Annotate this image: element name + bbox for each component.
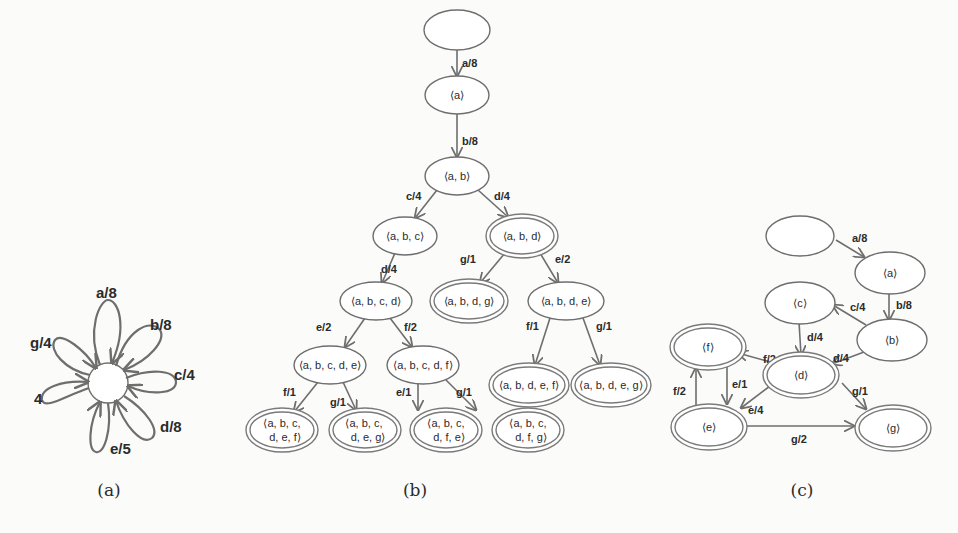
edge-label: f/2 <box>673 385 686 397</box>
node-label-abcdeg-line1: ⟨a, b, c, <box>345 417 382 429</box>
node-label-abdeg: ⟨a, b, d, e, g⟩ <box>579 379 642 391</box>
panel-a: a/8 b/8 c/4 d/8 e/5 4 g/4 (a) <box>30 284 196 500</box>
edge-label: f/1 <box>526 320 539 332</box>
node-label-abde: ⟨a, b, d, e⟩ <box>541 295 592 307</box>
flower-center-node <box>88 363 128 403</box>
panel-b: a/8 b/8 c/4 d/4 d/4 g/1 e/2 e/2 f/2 f/1 … <box>246 10 651 500</box>
edge-label: g/1 <box>330 396 346 408</box>
node-label-ab: ⟨a, b⟩ <box>444 170 470 182</box>
edge-label: c/4 <box>850 301 866 313</box>
petal-label-f: 4 <box>34 390 43 407</box>
node-label-abcdf: ⟨a, b, c, d, f⟩ <box>393 359 452 371</box>
edge-label: e/2 <box>555 253 570 265</box>
edge-c-c-d <box>799 322 801 355</box>
node-root <box>424 10 490 50</box>
edge-label: g/1 <box>460 253 476 265</box>
node-label-c-e: ⟨e⟩ <box>702 421 716 433</box>
petal-label-a: a/8 <box>96 284 117 301</box>
caption-a: (a) <box>97 480 120 500</box>
petal-d-loop <box>116 396 154 440</box>
node-label-abcdeg-line2: d, e, g⟩ <box>351 431 386 443</box>
edge-label: d/4 <box>381 263 398 275</box>
edge-label: e/1 <box>396 386 411 398</box>
node-label-abcdef-line1: ⟨a, b, c, <box>263 417 300 429</box>
edge-label: g/1 <box>852 385 868 397</box>
node-label-abd: ⟨a, b, d⟩ <box>503 230 542 242</box>
petal-label-e: e/5 <box>110 440 131 457</box>
edge-label: b/8 <box>896 299 912 311</box>
node-label-abcd: ⟨a, b, c, d⟩ <box>351 295 401 307</box>
node-c-root <box>766 216 834 256</box>
node-label-abcde: ⟨a, b, c, d, e⟩ <box>299 359 361 371</box>
panel-c: a/8 b/8 c/4 d/4 d/4 f/2 e/1 f/2 e/4 g/1 … <box>670 216 931 500</box>
caption-c: (c) <box>791 480 814 500</box>
node-label-c-a: ⟨a⟩ <box>883 267 897 279</box>
edge-label: d/4 <box>494 190 511 202</box>
petal-f-loop <box>42 382 89 404</box>
edge-label: d/4 <box>833 352 850 364</box>
petal-g-loop <box>53 338 96 375</box>
edge-label: g/2 <box>791 433 807 445</box>
petal-e-loop <box>90 402 109 452</box>
node-label-c-g: ⟨g⟩ <box>886 422 900 434</box>
edge-label: a/8 <box>852 232 867 244</box>
edge-label: a/8 <box>462 57 477 69</box>
node-label-c-b: ⟨b⟩ <box>885 334 899 346</box>
petal-a-loop <box>94 300 120 365</box>
node-label-abcdfe-line2: d, f, e⟩ <box>433 431 465 443</box>
node-label-abcdfe-line1: ⟨a, b, c, <box>427 417 464 429</box>
node-label-abdef: ⟨a, b, d, e, f⟩ <box>499 379 559 391</box>
node-label-c-d: ⟨d⟩ <box>794 369 808 381</box>
node-label-abcdef-line2: d, e, f⟩ <box>269 431 301 443</box>
edge-label: g/1 <box>596 320 612 332</box>
petal-c-loop <box>126 372 176 393</box>
edge-label: e/2 <box>316 321 331 333</box>
edge-label: c/4 <box>406 190 422 202</box>
node-label-abcdfg-line2: d, f, g⟩ <box>515 431 547 443</box>
petal-label-b: b/8 <box>150 316 172 333</box>
node-label-c-f: ⟨f⟩ <box>702 341 713 353</box>
petal-label-d: d/8 <box>160 418 182 435</box>
petal-label-g: g/4 <box>30 334 52 351</box>
node-label-c-c: ⟨c⟩ <box>793 297 807 309</box>
petal-label-c: c/4 <box>174 366 196 383</box>
edge-abd-abdg <box>480 253 505 283</box>
edge-label: d/4 <box>807 331 824 343</box>
edge-label: f/1 <box>283 386 296 398</box>
node-label-a: ⟨a⟩ <box>450 89 464 101</box>
edge-label: f/2 <box>404 321 417 333</box>
node-label-abdg: ⟨a, b, d, g⟩ <box>444 295 495 307</box>
node-label-abc: ⟨a, b, c⟩ <box>386 230 424 242</box>
node-label-abcdfg-line1: ⟨a, b, c, <box>509 417 546 429</box>
edge-abcd-abcde <box>345 318 365 347</box>
caption-b: (b) <box>403 480 427 500</box>
edge-label: e/1 <box>732 378 747 390</box>
edge-label: b/8 <box>462 135 478 147</box>
edge-abcde-abcdef <box>294 382 318 412</box>
edge-label: g/1 <box>456 386 472 398</box>
figure-canvas: a/8 b/8 c/4 d/8 e/5 4 g/4 (a) a/8 b/8 c/… <box>0 0 958 533</box>
edge-label: e/4 <box>748 404 764 416</box>
